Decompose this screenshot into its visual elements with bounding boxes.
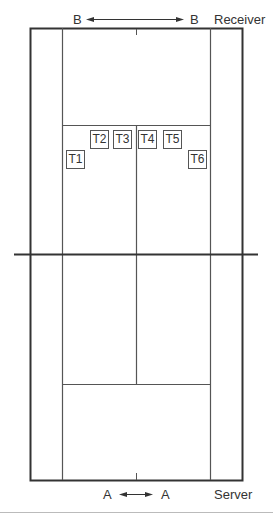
label-b-right: B: [190, 13, 199, 26]
target-t3: T3: [113, 130, 132, 149]
target-t2: T2: [90, 130, 109, 149]
label-a-left: A: [103, 488, 112, 501]
double-arrow-bottom: [119, 492, 153, 497]
target-t1: T1: [66, 150, 85, 169]
tennis-court: [0, 0, 273, 518]
double-arrow-top: [86, 17, 184, 22]
target-t4: T4: [138, 130, 157, 149]
target-t6: T6: [188, 150, 207, 169]
label-a-right: A: [161, 488, 170, 501]
label-server: Server: [214, 488, 252, 501]
target-t5: T5: [163, 130, 182, 149]
caption-divider: [0, 512, 273, 513]
label-b-left: B: [73, 13, 82, 26]
label-receiver: Receiver: [214, 13, 265, 26]
